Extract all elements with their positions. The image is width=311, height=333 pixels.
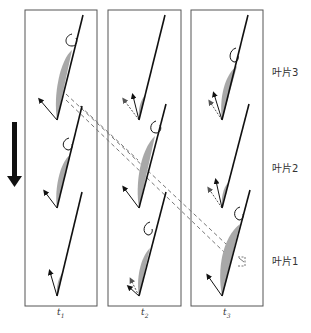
panel-t2-blade-2 [124, 104, 166, 208]
down-arrow-icon [7, 122, 22, 187]
panel-t1-blade-1 [50, 192, 82, 296]
panel-frame-t1 [25, 10, 97, 306]
vortex-icon [144, 222, 152, 235]
vortex-icon [63, 138, 72, 150]
blade-label-3: 叶片3 [272, 64, 298, 79]
time-label-t3: t3 [223, 307, 230, 319]
panel-t3-blade-3 [210, 15, 248, 120]
panel-t1-blade-2 [45, 106, 82, 208]
time-label-t1: t1 [57, 307, 64, 319]
blade-label-2: 叶片2 [272, 160, 298, 175]
time-label-t2: t2 [141, 307, 148, 319]
blade-label-1: 叶片1 [272, 253, 298, 268]
diagram-canvas [0, 0, 311, 333]
panel-t2-blade-1 [129, 192, 166, 296]
vortex-icon [235, 207, 244, 220]
panel-t3-blade-2 [209, 104, 249, 208]
panel-t2-blade-3 [124, 15, 165, 120]
